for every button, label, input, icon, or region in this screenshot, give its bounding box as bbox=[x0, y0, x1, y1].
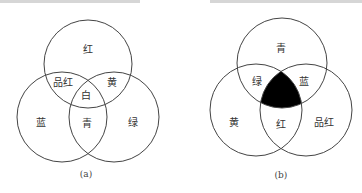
label-magenta: 品红 bbox=[53, 76, 73, 88]
label-green: 绿 bbox=[128, 116, 138, 128]
label-red: 红 bbox=[83, 43, 93, 55]
label-yellow: 黄 bbox=[107, 76, 117, 88]
label-red: 红 bbox=[276, 118, 286, 130]
color-mixing-diagrams: 红 品红 黄 白 蓝 青 绿 (a) 青 绿 蓝 黄 红 品红 (b) bbox=[0, 0, 362, 193]
label-yellow: 黄 bbox=[229, 116, 239, 128]
venn-diagram-a: 红 品红 黄 白 蓝 青 绿 (a) bbox=[17, 20, 159, 179]
label-blue: 蓝 bbox=[299, 76, 309, 87]
venn-diagram-b: 青 绿 蓝 黄 红 品红 (b) bbox=[210, 18, 352, 180]
caption-b: (b) bbox=[275, 170, 288, 180]
label-magenta: 品红 bbox=[314, 116, 334, 128]
label-white: 白 bbox=[81, 89, 91, 101]
label-blue: 蓝 bbox=[36, 117, 46, 128]
caption-a: (a) bbox=[80, 169, 92, 179]
label-cyan: 青 bbox=[276, 42, 286, 54]
label-green: 绿 bbox=[252, 75, 262, 87]
label-cyan: 青 bbox=[82, 117, 92, 129]
